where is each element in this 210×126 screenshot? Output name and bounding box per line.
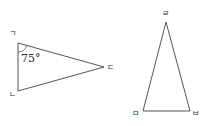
triangle-1-outline <box>18 43 104 91</box>
vertex-label-digeut: ㄷ <box>107 63 114 72</box>
angle-label: 75° <box>21 52 41 65</box>
triangle-1: 75° ㄱ ㄴ ㄷ <box>9 29 114 99</box>
triangle-2: ㄹ ㅁ ㅂ <box>132 9 199 118</box>
vertex-label-mieum: ㅁ <box>132 109 139 118</box>
vertex-label-bieup: ㅂ <box>192 109 199 118</box>
vertex-label-giyeok: ㄱ <box>9 29 16 38</box>
vertex-label-rieul: ㄹ <box>162 9 169 18</box>
vertex-label-nieun: ㄴ <box>9 90 16 99</box>
geometry-figure: 75° ㄱ ㄴ ㄷ ㄹ ㅁ ㅂ <box>0 0 210 126</box>
triangle-2-outline <box>143 22 190 111</box>
angle-arc <box>18 45 27 52</box>
